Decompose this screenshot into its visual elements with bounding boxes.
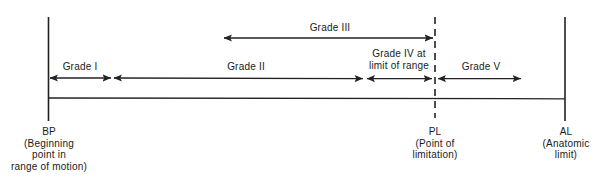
grade-2-label-text: Grade II bbox=[227, 61, 265, 72]
al-abbr: AL bbox=[543, 126, 590, 138]
diagram-canvas bbox=[0, 0, 604, 184]
pl-expansion-line2: limitation) bbox=[413, 149, 458, 161]
bp-abbr: BP bbox=[11, 126, 87, 138]
grade-1-label: Grade I bbox=[63, 61, 98, 72]
al-endpoint-label: AL (Anatomic limit) bbox=[543, 126, 590, 161]
baseline bbox=[48, 98, 565, 99]
bp-endpoint-label: BP (Beginning point in range of motion) bbox=[11, 126, 87, 172]
grade-5-label: Grade V bbox=[462, 61, 501, 72]
bp-expansion-line3: range of motion) bbox=[11, 161, 87, 173]
bp-expansion-line1: (Beginning bbox=[11, 138, 87, 150]
grade-3-label: Grade III bbox=[310, 22, 351, 33]
grade-5-label-text: Grade V bbox=[462, 61, 501, 72]
grade-2-label: Grade II bbox=[227, 61, 265, 72]
al-expansion-line1: (Anatomic bbox=[543, 138, 590, 150]
pl-expansion-line1: (Point of bbox=[413, 138, 458, 150]
grade-1-label-text: Grade I bbox=[63, 61, 98, 72]
al-expansion-line2: limit) bbox=[543, 149, 590, 161]
grade-4-label-line1: Grade IV at bbox=[369, 48, 429, 60]
grade-3-label-text: Grade III bbox=[310, 22, 351, 33]
grade-2-arrow bbox=[114, 78, 363, 79]
grade-4-label-line2: limit of range bbox=[369, 60, 429, 72]
bp-expansion-line2: point in bbox=[11, 149, 87, 161]
range-of-motion-diagram: Grade III Grade I Grade II Grade IV at l… bbox=[0, 0, 604, 184]
pl-abbr: PL bbox=[413, 126, 458, 138]
pl-endpoint-label: PL (Point of limitation) bbox=[413, 126, 458, 161]
grade-4-label: Grade IV at limit of range bbox=[369, 48, 429, 71]
